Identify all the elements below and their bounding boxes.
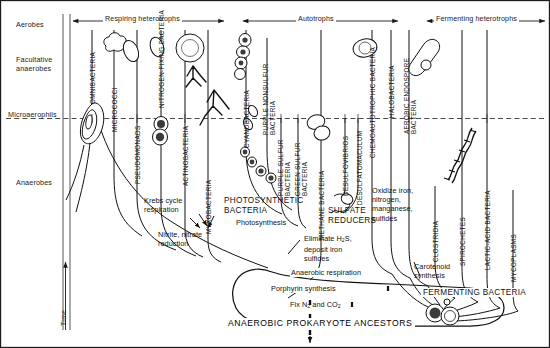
annotation-line-2: nitrogen, [372, 195, 413, 204]
annotation-line-4: sulfides [372, 214, 413, 223]
taxon-label-aerobic-endospore-bacteria: AEROBIC ENDOSPORE BACTERIA [403, 58, 418, 134]
annotation-line-2: reduction [158, 239, 202, 248]
fix-mid: and CO [310, 300, 338, 309]
taxon-label-omnibacteria: OMNIBACTERIA [89, 52, 96, 104]
annotation-line-1: Nitrite, nitrate [158, 230, 202, 239]
annotation-fix-n2-co2: Fix N2 and CO2 [290, 300, 341, 311]
taxon-line-2: BACTERIA [269, 63, 276, 135]
annotation-porphyrin-synthesis: Porphyrin synthesis [270, 284, 337, 293]
taxon-line-1: GREEN SULFUR [294, 142, 301, 196]
group-label-photosynthetic-bacteria: PHOTOSYNTHETIC BACTERIA [224, 196, 304, 216]
annotation-line-1: Carotenoid [414, 262, 450, 271]
fix-sub-b: 2 [338, 303, 341, 309]
zone-label-anaerobes: Anaerobes [16, 178, 52, 187]
taxon-label-lactic-acid-bacteria: LACTIC-ACID BACTERIA [484, 190, 491, 270]
annotation-line-1: Eliminate H2S, [304, 234, 352, 245]
taxon-label-halobacteria: HALOBACTERIA [388, 65, 395, 118]
zone-label-microaerophils: Microaerophils [8, 110, 57, 119]
taxon-label-purple-sulfur-bacteria: PURPLE SULFUR BACTERIA [277, 139, 292, 196]
h2s-suffix: S, [345, 234, 352, 243]
annotation-line-3: manganese, [372, 204, 413, 213]
group-line-2: REDUCERS [328, 216, 376, 226]
annotation-line-2: respiration [144, 205, 182, 214]
fix-prefix: Fix N [290, 300, 307, 309]
header-autotrophs: Autotrophs [296, 14, 336, 23]
time-axis-label: Time [60, 310, 67, 327]
annotation-krebs-cycle-respiration: Krebs cycle respiration [144, 196, 182, 214]
taxon-line-1: AEROBIC ENDOSPORE [403, 58, 410, 134]
taxon-label-desulfatomaculum: DESULFATOMACULUM [356, 131, 363, 205]
annotation-line-2: deposit iron [304, 245, 352, 254]
taxon-label-cyanobacteria: CYANOBACTERIA [243, 90, 250, 148]
taxon-label-chemoautotrophic-bacteria: CHEMOAUTOTROPHIC BACTERIA [369, 47, 376, 158]
taxon-label-myxobacteria: MYXOBACTERIA [205, 180, 212, 234]
h2s-prefix: Eliminate H [304, 234, 342, 243]
annotation-oxidize-minerals: Oxidize iron, nitrogen, manganese, sulfi… [372, 186, 413, 223]
taxon-line-2: BACTERIA [301, 142, 308, 196]
ancestor-root-label: ANAEROBIC PROKARYOTE ANCESTORS [225, 318, 415, 328]
annotation-line-1: Oxidize iron, [372, 186, 413, 195]
annotation-eliminate-h2s: Eliminate H2S, deposit iron sulfides [304, 234, 352, 264]
annotation-line-3: sulfides [304, 254, 352, 263]
annotation-carotenoid-synthesis: Carotenoid synthesis [414, 262, 450, 280]
taxon-label-desulfovibrios: DESULFOVIBRIOS [342, 136, 349, 196]
zone-label-line2: anaerobes [16, 64, 52, 73]
taxon-line-2: BACTERIA [410, 58, 417, 134]
header-fermenting-heterotrophs: Fermenting heterotrophs [434, 14, 519, 23]
zone-label-line1: Facultative [16, 55, 52, 64]
taxon-line-2: BACTERIA [284, 139, 291, 196]
taxon-label-methane-bacteria: METHANE BACTERIA [318, 170, 325, 240]
group-label-fermenting-bacteria: FERMENTING BACTERIA [421, 288, 528, 297]
taxon-label-mycoplasms: MYCOPLASMS [510, 234, 517, 282]
annotation-line-2: synthesis [414, 271, 450, 280]
taxon-label-green-sulfur-bacteria: GREEN SULFUR BACTERIA [294, 142, 309, 196]
taxon-line-1: PURPLE NONSULFUR [262, 63, 269, 135]
group-line-1: SULFATE [328, 206, 376, 216]
diagram-canvas: Aerobes Facultative anaerobes Microaerop… [0, 0, 550, 348]
taxon-label-pseudomonads: PSEUDOMONADS [134, 126, 141, 184]
taxon-label-clostridia: CLOSTRIDIA [432, 221, 439, 262]
taxon-label-micrococci: MICROCOCCI [111, 87, 118, 132]
annotation-anaerobic-respiration: Anaerobic respiration [290, 268, 362, 277]
taxon-label-spirochetes: SPIROCHETES [459, 217, 466, 266]
zone-label-facultative-anaerobes: Facultative anaerobes [16, 55, 52, 73]
annotation-line-1: Krebs cycle [144, 196, 182, 205]
group-line-1: PHOTOSYNTHETIC [224, 196, 304, 206]
zone-label-aerobes: Aerobes [16, 20, 44, 29]
taxon-label-nitrogen-fixing-bacteria: NITROGEN-FIXING BACTERIA [158, 10, 165, 108]
annotation-nitrite-nitrate-reduction: Nitrite, nitrate reduction [158, 230, 202, 248]
group-line-2: BACTERIA [224, 206, 304, 216]
annotation-photosynthesis: Photosynthesis [236, 218, 286, 227]
group-label-sulfate-reducers: SULFATE REDUCERS [328, 206, 376, 226]
header-respiring-heterotrophs: Respiring heterotrophs [103, 14, 182, 23]
taxon-line-1: PURPLE SULFUR [277, 139, 284, 196]
taxon-label-purple-nonsulfur-bacteria: PURPLE NONSULFUR BACTERIA [262, 63, 277, 135]
taxon-label-actinobacteria: ACTINOBACTERIA [182, 126, 189, 186]
